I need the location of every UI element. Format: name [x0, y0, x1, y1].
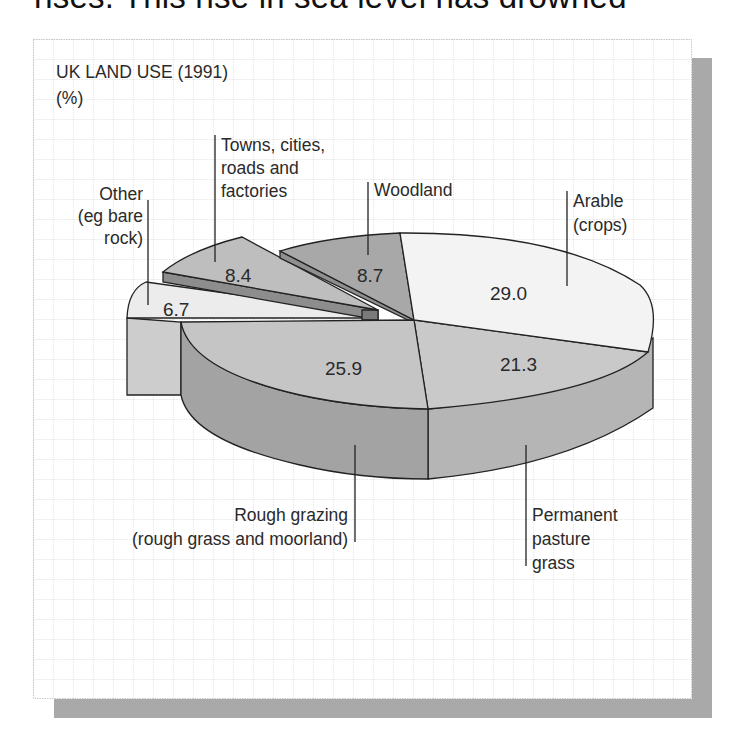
svg-text:(crops): (crops) [573, 215, 627, 235]
value-towns: 8.4 [225, 265, 252, 286]
svg-text:Rough grazing: Rough grazing [234, 505, 348, 525]
svg-text:Permanent: Permanent [532, 505, 618, 525]
svg-text:Towns, cities,: Towns, cities, [221, 135, 325, 155]
value-other: 6.7 [163, 299, 189, 320]
svg-text:Woodland: Woodland [374, 180, 453, 200]
svg-text:grass: grass [532, 553, 575, 573]
chart-figure: UK LAND USE (1991) (%) 29.0 21.3 25.9 6.… [0, 0, 732, 749]
svg-text:(rough grass and moorland): (rough grass and moorland) [132, 529, 348, 549]
value-woodland: 8.7 [357, 265, 383, 286]
svg-text:Arable: Arable [573, 191, 624, 211]
svg-text:factories: factories [221, 181, 287, 201]
chart-title: UK LAND USE (1991) [56, 62, 228, 82]
value-pasture: 21.3 [500, 354, 537, 375]
value-rough-grazing: 25.9 [325, 358, 362, 379]
svg-text:Other: Other [99, 184, 143, 204]
svg-text:roads and: roads and [221, 158, 299, 178]
label-woodland: Woodland [374, 180, 453, 200]
chart-title-unit: (%) [56, 88, 83, 108]
svg-text:(eg bare: (eg bare [78, 206, 143, 226]
svg-text:pasture: pasture [532, 529, 590, 549]
value-arable: 29.0 [490, 283, 527, 304]
svg-text:rock): rock) [104, 228, 143, 248]
